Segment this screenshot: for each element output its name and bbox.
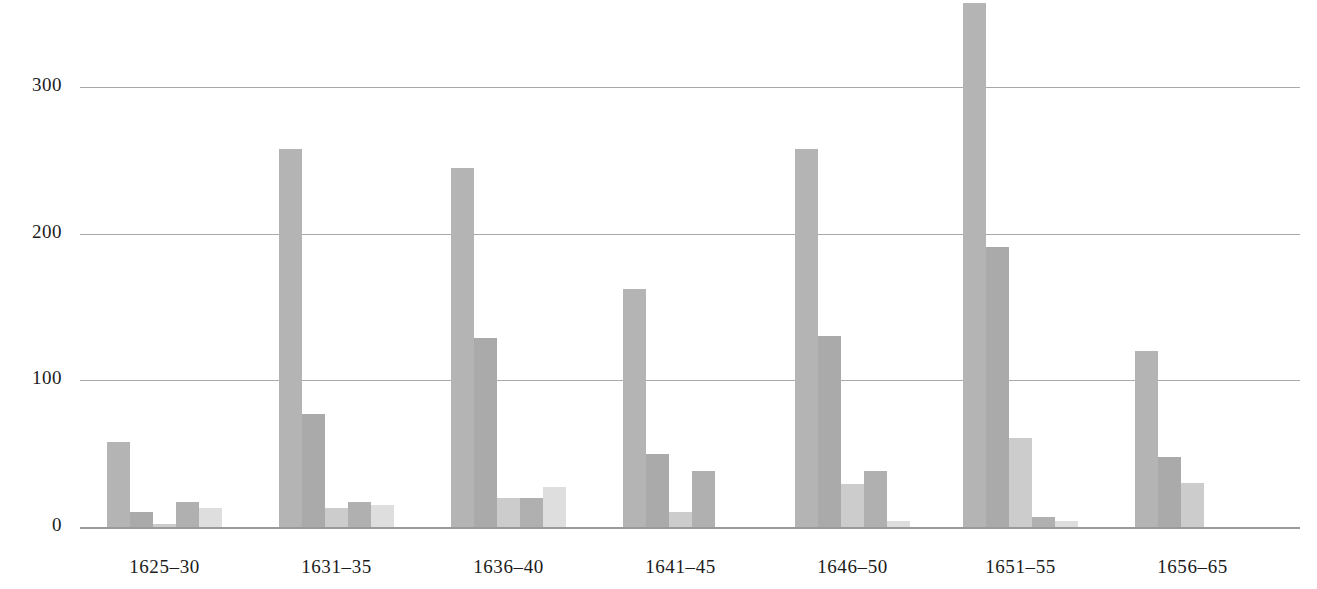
bar [176,502,199,527]
bar [692,471,715,527]
bar [623,289,646,527]
bar-group [451,0,566,527]
bar [153,524,176,527]
bar [646,454,669,527]
y-axis-tick-label: 200 [32,221,62,243]
bar [818,336,841,527]
x-axis-tick-label: 1656–65 [1113,556,1273,578]
bar [451,168,474,527]
y-axis-tick-label: 300 [32,74,62,96]
bar [279,149,302,527]
bar [1181,483,1204,527]
x-axis-tick-label: 1631–35 [257,556,417,578]
x-axis-tick-label: 1651–55 [941,556,1101,578]
bar-group [1135,0,1250,527]
bar-group [963,0,1078,527]
bar [1032,517,1055,527]
bar [1158,457,1181,527]
bar [986,247,1009,527]
bar [371,505,394,527]
bar [348,502,371,527]
x-axis-tick-label: 1636–40 [429,556,589,578]
bar [795,149,818,527]
bar-group [107,0,222,527]
bar [130,512,153,527]
bar [669,512,692,527]
y-axis-tick-label: 100 [32,367,62,389]
bar [864,471,887,527]
bar-group [279,0,394,527]
bar [497,498,520,527]
bar [543,487,566,527]
bar [1009,438,1032,527]
x-axis-tick-label: 1641–45 [601,556,761,578]
bar-group [623,0,738,527]
bar [887,521,910,527]
bar [1135,351,1158,527]
bar [302,414,325,527]
bar [474,338,497,527]
bar [520,498,543,527]
bar [107,442,130,527]
x-axis-tick-label: 1625–30 [85,556,245,578]
bar [1055,521,1078,527]
x-axis-line [80,527,1300,529]
bar [963,3,986,527]
bar [199,508,222,527]
y-axis-tick-label: 0 [52,514,62,536]
x-axis-tick-label: 1646–50 [773,556,933,578]
bar [325,508,348,527]
bar [841,484,864,527]
plot-area: 01002003001625–301631–351636–401641–4516… [0,0,1317,589]
bar-chart: 01002003001625–301631–351636–401641–4516… [0,0,1317,589]
bar-group [795,0,910,527]
